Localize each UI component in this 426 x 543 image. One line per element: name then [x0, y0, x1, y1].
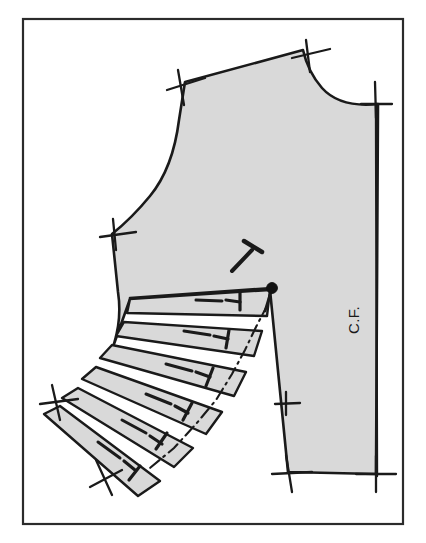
spread-segment-1-dash-tick — [196, 300, 222, 301]
pattern-figure: C.F. — [0, 0, 426, 543]
pattern-drawing-canvas: C.F. — [0, 0, 426, 543]
center-front-label: C.F. — [345, 306, 362, 334]
spread-segment-1-tee-stem — [226, 300, 240, 302]
notch-side-waist-stroke-b — [275, 403, 300, 404]
center-front-line — [376, 104, 377, 476]
bust-point-apex — [267, 283, 278, 294]
notch-neck-right-stroke-a — [375, 82, 376, 118]
